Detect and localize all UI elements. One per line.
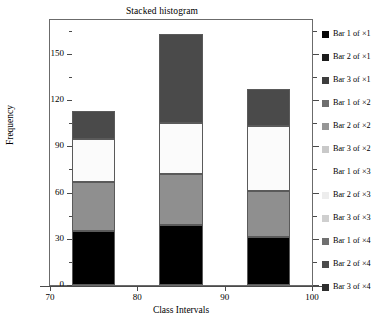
x-tick-label: 100 [305,292,319,302]
legend-swatch-icon [322,77,329,84]
legend-swatch-icon [322,146,329,153]
x-tick-label: 90 [220,292,229,302]
chart-legend: Bar 1 of ×1Bar 2 of ×1Bar 3 of ×1Bar 1 o… [322,23,385,299]
right-tick-mark [313,193,319,194]
legend-item-label: Bar 3 of ×2 [333,145,371,153]
x-tick-mark [137,286,138,291]
x-tick-mark [312,286,313,291]
right-tick-mark [313,262,317,263]
legend-item-label: Bar 1 of ×2 [333,99,371,107]
bar-segment [159,123,203,174]
bar-segment [247,126,291,191]
legend-item[interactable]: Bar 1 of ×2 [322,92,385,115]
bar-segment [72,231,116,285]
legend-item-label: Bar 1 of ×3 [333,168,371,176]
right-tick-mark [313,77,317,78]
legend-swatch-icon [322,284,329,291]
legend-swatch-icon [322,123,329,130]
legend-swatch-icon [322,238,329,245]
chart-root: Stacked histogram Frequency 030609012015… [0,0,385,334]
legend-item[interactable]: Bar 1 of ×3 [322,161,385,184]
chart-title: Stacked histogram [58,6,266,16]
legend-item-label: Bar 1 of ×4 [333,237,371,245]
legend-item[interactable]: Bar 3 of ×1 [322,69,385,92]
legend-item[interactable]: Bar 2 of ×3 [322,184,385,207]
x-axis-line [40,286,322,287]
legend-item[interactable]: Bar 2 of ×4 [322,253,385,276]
x-tick-mark [225,286,226,291]
legend-swatch-icon [322,54,329,61]
bar-segment [159,174,203,225]
bar-segment [72,111,116,139]
legend-item-label: Bar 3 of ×4 [333,283,371,291]
right-tick-mark [313,239,319,240]
legend-item[interactable]: Bar 1 of ×1 [322,23,385,46]
legend-swatch-icon [322,169,329,176]
legend-item[interactable]: Bar 2 of ×2 [322,115,385,138]
legend-item-label: Bar 3 of ×3 [333,214,371,222]
right-tick-mark [313,54,319,55]
legend-item-label: Bar 2 of ×3 [333,191,371,199]
x-tick-label: 80 [133,292,142,302]
x-tick-label: 70 [46,292,55,302]
bar-segment [159,34,203,123]
legend-item[interactable]: Bar 2 of ×1 [322,46,385,69]
legend-item-label: Bar 2 of ×2 [333,122,371,130]
bar-segment [72,139,116,182]
x-tick-mark [50,286,51,291]
legend-item[interactable]: Bar 1 of ×4 [322,230,385,253]
legend-swatch-icon [322,31,329,38]
bar-segment [247,237,291,285]
x-axis-label: Class Intervals [49,305,313,315]
legend-item-label: Bar 3 of ×1 [333,76,371,84]
bar-segment [72,182,116,231]
right-tick-mark [313,31,317,32]
legend-item[interactable]: Bar 3 of ×3 [322,207,385,230]
legend-swatch-icon [322,215,329,222]
legend-item-label: Bar 2 of ×1 [333,53,371,61]
legend-swatch-icon [322,261,329,268]
bar-segment [247,191,291,237]
right-tick-mark [313,146,319,147]
bar-segment [159,225,203,285]
legend-item-label: Bar 2 of ×4 [333,260,371,268]
right-tick-mark [313,100,319,101]
y-axis-label: Frequency [5,77,15,173]
right-tick-mark [313,123,317,124]
legend-swatch-icon [322,192,329,199]
legend-item[interactable]: Bar 3 of ×2 [322,138,385,161]
right-tick-mark [313,216,317,217]
right-tick-mark [313,169,317,170]
bar-series-group [50,20,312,285]
bar-segment [247,89,291,126]
legend-item[interactable]: Bar 3 of ×4 [322,276,385,299]
legend-swatch-icon [322,100,329,107]
legend-item-label: Bar 1 of ×1 [333,30,371,38]
